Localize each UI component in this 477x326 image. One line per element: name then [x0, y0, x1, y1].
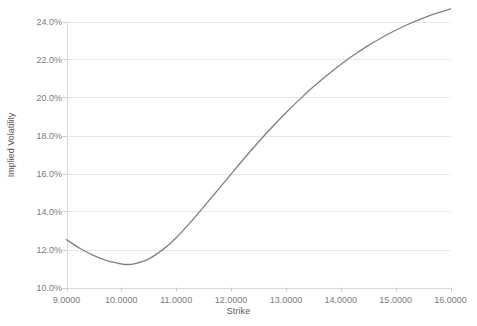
- x-tick-label: 13.0000: [270, 295, 303, 305]
- x-tick-label: 9.0000: [53, 295, 81, 305]
- x-tick-label: 12.0000: [215, 295, 248, 305]
- x-tick-label: 15.0000: [379, 295, 412, 305]
- x-tick-label: 11.0000: [160, 295, 192, 305]
- y-axis-title-container: Implied Volatility: [0, 0, 22, 290]
- x-tick-label: 16.0000: [434, 295, 467, 305]
- x-axis-title: Strike: [0, 306, 477, 316]
- y-axis-title: Implied Volatility: [6, 113, 16, 178]
- x-axis-tick-labels: 9.000010.000011.000012.000013.000014.000…: [0, 0, 477, 326]
- x-tick-label: 14.0000: [325, 295, 358, 305]
- implied-volatility-chart: 10.0%12.0%14.0%16.0%18.0%20.0%22.0%24.0%…: [0, 0, 477, 326]
- x-tick-label: 10.0000: [105, 295, 138, 305]
